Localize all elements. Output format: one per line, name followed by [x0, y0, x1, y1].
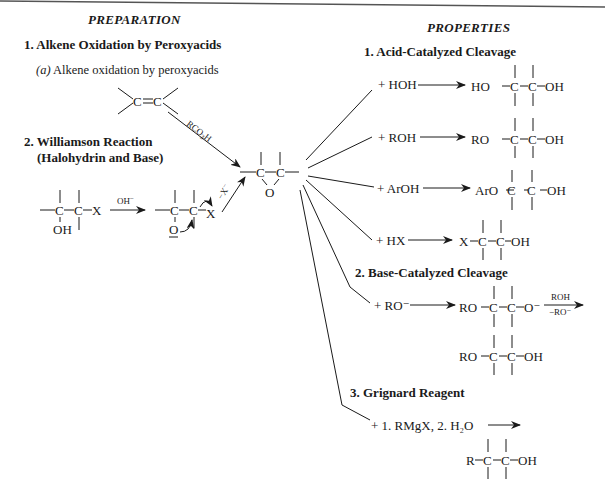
product-1-right: OH — [545, 79, 564, 95]
svg-text:C: C — [55, 203, 64, 218]
svg-text:O: O — [169, 222, 178, 237]
product-2-right: OH — [545, 132, 564, 148]
reagent-aroh: + ArOH — [377, 181, 419, 197]
reagent-hoh: + HOH — [378, 77, 417, 93]
base-product-left: RO — [459, 349, 477, 365]
grignard-product-right: OH — [518, 453, 537, 469]
svg-text:C: C — [276, 165, 285, 180]
svg-text:C: C — [256, 165, 265, 180]
base-cleavage-title: 2. Base-Catalyzed Cleavage — [355, 265, 508, 281]
svg-text:−X−: −X− — [214, 182, 232, 201]
svg-text:O: O — [265, 185, 274, 200]
svg-text:C: C — [496, 234, 505, 249]
svg-text:C: C — [528, 132, 537, 147]
svg-text:C: C — [507, 349, 516, 364]
svg-text:C: C — [170, 203, 179, 218]
svg-text:C: C — [528, 79, 537, 94]
preparation-heading: PREPARATION — [88, 12, 181, 28]
properties-heading: PROPERTIES — [427, 20, 510, 36]
svg-text:C: C — [489, 300, 498, 315]
intermediate-left: RO — [459, 300, 477, 316]
svg-text:C: C — [510, 79, 519, 94]
alkene-structure: C C — [118, 88, 178, 114]
svg-text:C: C — [510, 132, 519, 147]
base-product-right: OH — [524, 349, 543, 365]
reagent-ro-minus: + RO⁻ — [374, 298, 410, 314]
svg-text:C: C — [478, 234, 487, 249]
svg-text:C: C — [507, 183, 516, 198]
product-2-left: RO — [471, 132, 489, 148]
product-1-left: HO — [471, 79, 490, 95]
product-3-left: ArO — [475, 183, 498, 199]
svg-text:OH: OH — [53, 222, 72, 237]
product-3-right: OH — [547, 183, 566, 199]
product-4-left: X — [459, 234, 468, 250]
svg-text:C: C — [483, 453, 492, 468]
svg-text:OH−: OH− — [117, 195, 134, 206]
grignard-title: 3. Grignard Reagent — [350, 385, 464, 401]
reagent-rco3h: RCO3H — [184, 119, 214, 146]
svg-text:C: C — [74, 203, 83, 218]
reagent-grignard: + 1. RMgX, 2. H₂O — [371, 418, 474, 434]
svg-text:C: C — [527, 183, 536, 198]
svg-text:C: C — [189, 203, 198, 218]
grignard-product-left: R — [466, 453, 475, 469]
svg-text:C: C — [489, 349, 498, 364]
arrow-label-roh: ROH — [551, 292, 570, 302]
arrow-label-minus-ro: −RO⁻ — [549, 307, 571, 317]
prep-section-1-title: 1. Alkene Oxidation by Peroxyacids — [24, 37, 221, 53]
prep-section-2-subtitle: (Halohydrin and Base) — [37, 150, 163, 166]
intermediate-right: O⁻ — [524, 300, 540, 316]
reagent-hx: + HX — [376, 233, 405, 249]
reagent-roh: + ROH — [378, 130, 416, 146]
epoxide-structure: C C O — [240, 152, 299, 200]
prep-section-2-title: 2. Williamson Reaction — [24, 134, 152, 150]
svg-text:C: C — [133, 94, 142, 109]
product-4-right: OH — [511, 234, 530, 250]
reaction-fan-lines — [300, 90, 374, 420]
alkoxide-structure: C C X O — [155, 190, 216, 237]
halohydrin-structure: C C X OH — [40, 190, 102, 237]
svg-text:X: X — [92, 203, 102, 218]
acid-cleavage-title: 1. Acid-Catalyzed Cleavage — [364, 44, 516, 60]
svg-text:C: C — [501, 453, 510, 468]
svg-text:C: C — [507, 300, 516, 315]
prep-section-1-sub: (a) Alkene oxidation by peroxyacids — [36, 63, 219, 78]
svg-text:X: X — [206, 206, 216, 221]
svg-text:C: C — [153, 94, 162, 109]
